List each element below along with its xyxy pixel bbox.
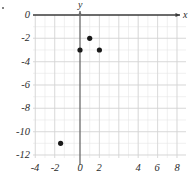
data-point — [58, 141, 63, 146]
gridlines-horizontal — [33, 27, 186, 155]
x-tick-label-8: 8 — [168, 163, 186, 173]
scatter-plot-figure: 0 -2 -4 -6 -8 -10 -12 -4 -2 0 2 4 6 8 y … — [0, 0, 191, 173]
x-tick-label-6: 6 — [148, 163, 166, 173]
x-tick-label-4: 4 — [129, 163, 147, 173]
x-tick-label-minus-4: -4 — [26, 163, 44, 173]
data-point — [97, 47, 102, 52]
gridlines-vertical — [35, 15, 177, 158]
x-axis-label: x — [183, 10, 187, 20]
x-axis-arrowhead — [176, 13, 181, 17]
y-tick-label-minus-6: -6 — [6, 80, 30, 91]
data-point — [77, 47, 82, 52]
y-tick-label-minus-12: -12 — [2, 150, 30, 161]
x-tick-label-2: 2 — [90, 163, 108, 173]
y-axis-arrowhead — [78, 11, 82, 15]
y-tick-label-minus-10: -10 — [2, 127, 30, 138]
data-point — [87, 36, 92, 41]
y-tick-label-0: 0 — [6, 10, 30, 21]
x-tick-label-minus-2: -2 — [46, 163, 64, 173]
y-tick-label-minus-4: -4 — [6, 57, 30, 68]
x-tick-label-0: 0 — [71, 163, 89, 173]
y-axis-label: y — [78, 0, 82, 10]
y-tick-label-minus-2: -2 — [6, 33, 30, 44]
major-gridlines-vertical — [35, 15, 177, 158]
y-tick-label-minus-8: -8 — [6, 103, 30, 114]
